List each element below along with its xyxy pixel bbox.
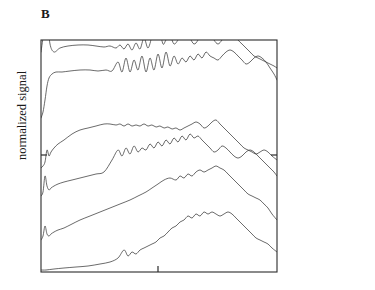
figure-panel-b: B normalized signal 9N.10i.S.36h4N.6i.S.… [0, 0, 375, 290]
panel-letter: B [41, 6, 50, 22]
trace-1-n [41, 166, 277, 240]
trace-6-i-s [41, 134, 277, 196]
traces-group [41, 5, 277, 270]
trace-2-i-s [41, 212, 277, 270]
trace-9-n [41, 5, 277, 68]
y-axis-label: normalized signal [15, 36, 30, 196]
spectra-plot [0, 0, 375, 290]
trace-10-i-s [41, 50, 277, 118]
trace-4-n [41, 120, 277, 168]
